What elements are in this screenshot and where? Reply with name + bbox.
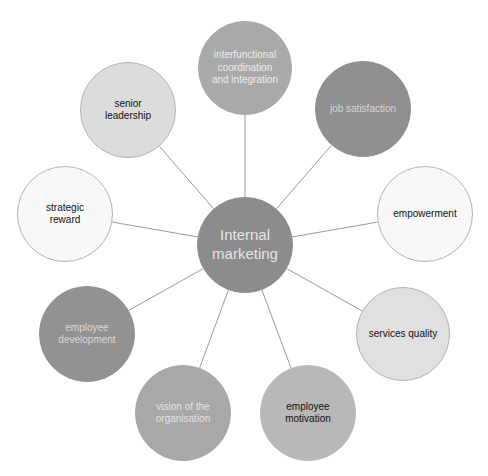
- label-line: and integration: [212, 74, 278, 87]
- center-node-internal-marketing-label: Internalmarketing: [212, 226, 278, 264]
- connector-vision: [200, 290, 229, 368]
- center-node-internal-marketing: Internalmarketing: [197, 197, 293, 293]
- label-line: organisation: [156, 413, 210, 426]
- label-line: vision of the: [156, 401, 210, 414]
- label-line: interfunctional: [212, 49, 278, 62]
- node-services-quality: services quality: [356, 287, 450, 381]
- label-line: marketing: [212, 245, 278, 264]
- label-line: strategic: [46, 202, 84, 215]
- node-employee-motivation-label: employeemotivation: [285, 401, 331, 426]
- connector-strategic-reward: [112, 222, 197, 237]
- node-job-satisfaction-label: job satisfaction: [330, 103, 396, 116]
- node-empowerment: empowerment: [377, 166, 473, 262]
- label-line: development: [58, 334, 115, 347]
- label-line: services quality: [369, 328, 437, 341]
- node-vision: vision of theorganisation: [135, 365, 231, 461]
- node-strategic-reward-label: strategicreward: [46, 202, 84, 227]
- connector-senior-leadership: [159, 146, 213, 208]
- label-line: job satisfaction: [330, 103, 396, 116]
- node-employee-development: employeedevelopment: [39, 286, 135, 382]
- node-employee-development-label: employeedevelopment: [58, 322, 115, 347]
- node-empowerment-label: empowerment: [393, 208, 456, 221]
- node-strategic-reward: strategicreward: [17, 166, 113, 262]
- connector-job-satisfaction: [277, 145, 332, 208]
- node-vision-label: vision of theorganisation: [156, 401, 210, 426]
- label-line: reward: [46, 214, 84, 227]
- label-line: employee: [285, 401, 331, 414]
- label-line: senior: [105, 98, 151, 111]
- node-interfunctional: interfunctionalcoordinationand integrati…: [198, 21, 292, 115]
- label-line: coordination: [212, 62, 278, 75]
- connector-services-quality: [287, 269, 362, 311]
- node-employee-motivation: employeemotivation: [260, 365, 356, 461]
- label-line: leadership: [105, 110, 151, 123]
- connector-employee-motivation: [262, 290, 291, 368]
- node-job-satisfaction: job satisfaction: [315, 61, 411, 157]
- label-line: Internal: [212, 226, 278, 245]
- label-line: empowerment: [393, 208, 456, 221]
- node-senior-leadership: seniorleadership: [80, 62, 176, 158]
- node-services-quality-label: services quality: [369, 328, 437, 341]
- connector-employee-development: [129, 269, 203, 311]
- node-senior-leadership-label: seniorleadership: [105, 98, 151, 123]
- node-interfunctional-label: interfunctionalcoordinationand integrati…: [212, 49, 278, 87]
- internal-marketing-diagram: interfunctionalcoordinationand integrati…: [0, 0, 488, 476]
- label-line: employee: [58, 322, 115, 335]
- connector-empowerment: [292, 222, 377, 237]
- label-line: motivation: [285, 413, 331, 426]
